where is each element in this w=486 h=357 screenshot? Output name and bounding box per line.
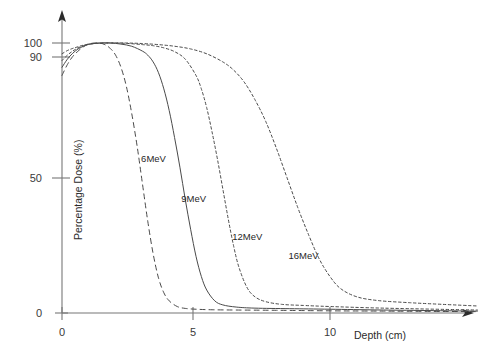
y-axis-ticks: 100 90 50 0 <box>24 37 70 319</box>
series-annotations-group: 6MeV9MeV12MeV16MeV <box>141 153 319 261</box>
series-label-12mev: 12MeV <box>232 231 263 242</box>
dose-curve-9mev <box>62 43 477 311</box>
y-tick-label-0: 0 <box>36 307 42 319</box>
dose-curve-12mev <box>62 43 477 310</box>
axes-group <box>58 10 474 317</box>
x-tick-label-0: 0 <box>59 326 65 338</box>
series-label-9mev: 9MeV <box>181 193 206 204</box>
x-tick-label-5: 5 <box>190 326 196 338</box>
dose-curve-16mev <box>62 43 477 306</box>
series-label-6mev: 6MeV <box>141 153 166 164</box>
x-axis-title: Depth (cm) <box>354 329 406 341</box>
y-tick-label-90: 90 <box>30 51 42 63</box>
y-axis-title: Percentage Dose (%) <box>72 140 84 240</box>
dose-curve-6mev <box>62 43 477 312</box>
x-axis-ticks: 0 5 10 <box>59 307 336 338</box>
chart-canvas: 100 90 50 0 0 5 10 Depth (cm) Percentage… <box>0 0 486 357</box>
x-tick-label-10: 10 <box>324 326 336 338</box>
series-label-16mev: 16MeV <box>289 250 320 261</box>
dose-curves-group <box>62 43 477 312</box>
y-tick-label-50: 50 <box>30 172 42 184</box>
percentage-depth-dose-chart: 100 90 50 0 0 5 10 Depth (cm) Percentage… <box>0 0 486 357</box>
y-tick-label-100: 100 <box>24 37 42 49</box>
